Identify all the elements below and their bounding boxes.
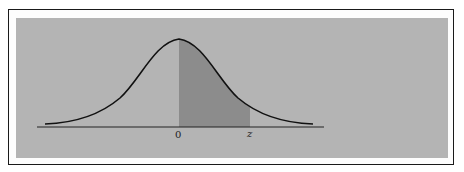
z-label: z — [247, 128, 252, 139]
normal-curve-diagram — [0, 0, 464, 172]
shaded-area — [179, 30, 250, 127]
origin-label: 0 — [175, 129, 181, 140]
